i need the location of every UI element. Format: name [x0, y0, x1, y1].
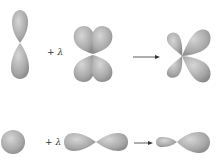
plus-lambda-label-bottom: + λ [45, 137, 61, 147]
d-orbital-cloverleaf [74, 26, 113, 82]
reaction-arrow-bottom [134, 141, 153, 145]
sp-hybrid-orbital [156, 132, 210, 153]
p-orbital-vertical [11, 10, 29, 79]
orbital-diagram [0, 0, 222, 163]
pd-hybrid-orbital [167, 30, 211, 83]
s-orbital-sphere [1, 130, 25, 154]
plus-lambda-label-top: + λ [47, 47, 63, 57]
reaction-arrow-top [133, 55, 160, 59]
p-orbital-horizontal [64, 133, 128, 151]
